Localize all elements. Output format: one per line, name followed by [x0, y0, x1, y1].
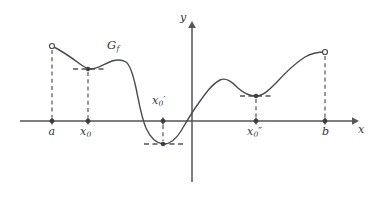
- label-curve-gf-subscript: f: [116, 44, 119, 53]
- x-axis: [20, 117, 359, 125]
- label-x-axis: x: [358, 124, 364, 135]
- label-x0-base: x: [80, 125, 86, 138]
- label-x0-double-prime-mark: ″: [258, 125, 262, 136]
- tangent-lines-group: [73, 69, 274, 144]
- endpoint-open-circle-a: [50, 44, 55, 49]
- endpoint-markers-group: [50, 44, 328, 55]
- function-graph-figure: a x0 x0′ x0″ b x y Gf: [0, 0, 376, 200]
- axis-dot-x0: [86, 119, 90, 123]
- axis-dot-x0-double-prime: [254, 119, 258, 123]
- axis-dot-b: [323, 119, 327, 123]
- graph-canvas: [0, 0, 376, 200]
- endpoint-open-circle-b: [323, 50, 328, 55]
- label-x0-double-prime-base: x: [247, 125, 253, 138]
- axis-dot-x0-prime: [161, 119, 165, 123]
- curve-point-dots-group: [86, 67, 258, 146]
- label-x0-prime-mark: ′: [163, 94, 165, 105]
- label-y-axis: y: [180, 12, 186, 23]
- function-curve: [52, 46, 325, 144]
- label-x0-prime-base: x: [152, 94, 158, 107]
- label-curve-gf: Gf: [107, 40, 119, 53]
- label-x0-double-prime: x0″: [247, 126, 262, 139]
- curve-dot-x0-double-prime: [254, 94, 258, 98]
- label-x0: x0: [80, 126, 91, 139]
- y-axis: [188, 21, 196, 182]
- axis-dot-a: [50, 119, 54, 123]
- label-x0-prime: x0′: [152, 95, 166, 108]
- drop-lines-group: [52, 50, 325, 141]
- label-curve-gf-base: G: [107, 38, 116, 52]
- curve-dot-x0-prime: [161, 142, 165, 146]
- label-x0-subscript: 0: [87, 130, 92, 139]
- label-a: a: [49, 126, 56, 137]
- label-b: b: [322, 126, 329, 137]
- curve-dot-x0: [86, 67, 90, 71]
- y-axis-arrow-icon: [188, 21, 196, 28]
